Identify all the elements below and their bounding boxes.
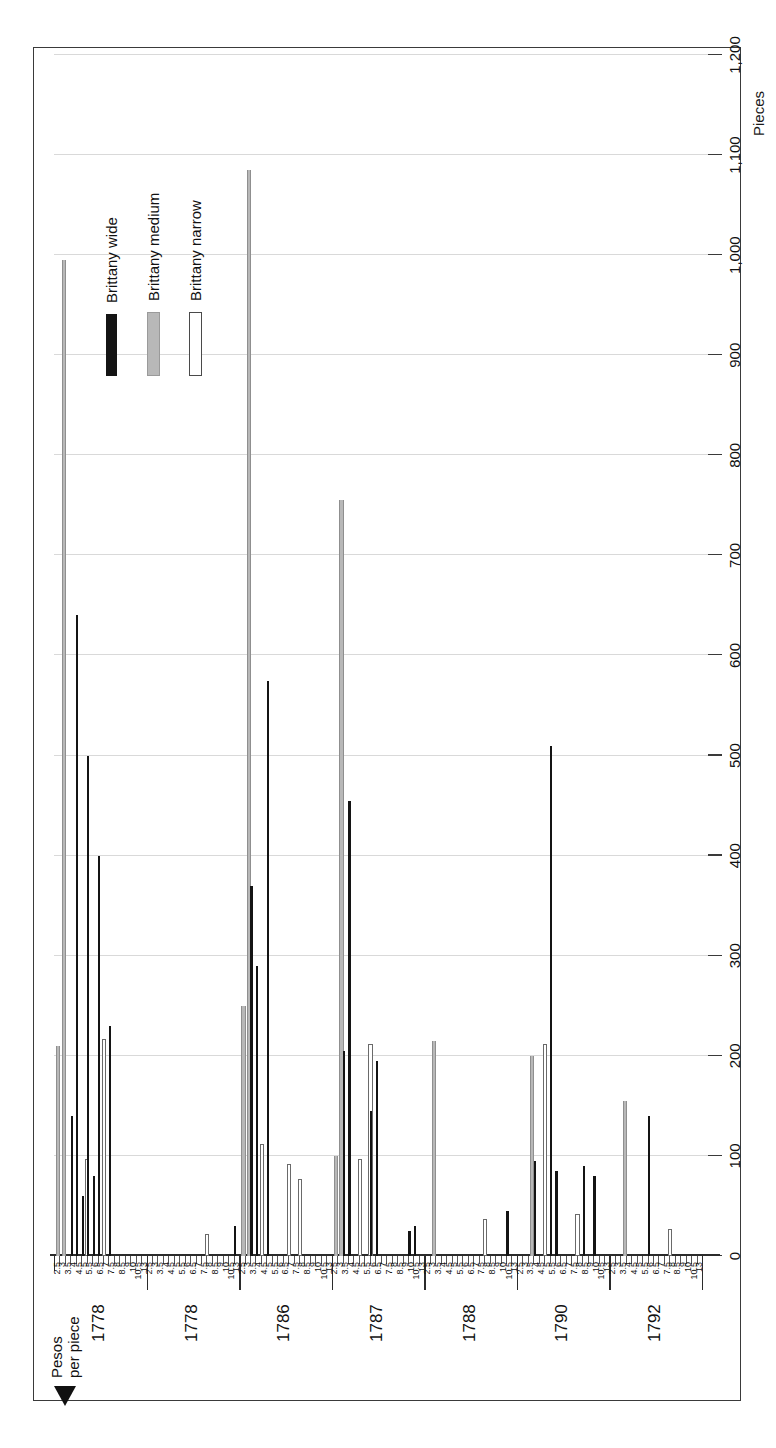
bar-wide: [648, 1116, 650, 1256]
value-tick-label: 700: [726, 543, 743, 568]
value-tick-label: 1,100: [726, 136, 743, 174]
gridline: [54, 554, 720, 555]
legend-swatch-medium: [147, 312, 160, 376]
value-tick: [708, 254, 722, 255]
value-tick-label: 1,000: [726, 236, 743, 274]
value-tick: [708, 354, 722, 355]
plot-area: 1,2001,1001,0009008007006005004003002001…: [42, 41, 732, 1361]
value-tick-label: 100: [726, 1143, 743, 1168]
bar-wide: [376, 1061, 378, 1256]
bar-narrow: [102, 1039, 106, 1256]
bar-wide: [109, 1026, 111, 1256]
gridline: [54, 1055, 720, 1056]
bar-wide: [408, 1231, 410, 1256]
legend-item[interactable]: Brittany medium: [144, 193, 162, 376]
bar-wide: [534, 1161, 536, 1256]
bar-medium: [623, 1101, 627, 1256]
gridline: [54, 955, 720, 956]
value-tick-label: 800: [726, 443, 743, 468]
bar-narrow: [358, 1159, 362, 1256]
rotated-chart-canvas: 1,2001,1001,0009008007006005004003002001…: [42, 41, 732, 1361]
bar-medium: [62, 260, 66, 1256]
year-label: 1792: [645, 1304, 665, 1342]
bar-wide: [234, 1226, 236, 1256]
bar-wide: [593, 1176, 595, 1256]
chart-page: 1,2001,1001,0009008007006005004003002001…: [0, 0, 776, 1448]
legend-swatch-wide: [106, 314, 117, 376]
value-tick: [708, 454, 722, 455]
value-tick: [708, 955, 722, 956]
bar-wide: [414, 1226, 416, 1256]
bar-wide: [87, 756, 89, 1256]
bar-wide: [370, 1111, 372, 1256]
value-tick-label: 200: [726, 1043, 743, 1068]
gridline: [54, 154, 720, 155]
value-tick-label: 1,200: [726, 36, 743, 74]
bar-wide: [343, 1051, 345, 1256]
bar-narrow: [543, 1044, 547, 1256]
bar-wide: [267, 681, 269, 1256]
value-tick: [708, 154, 722, 155]
legend-swatch-narrow: [189, 312, 202, 376]
year-label: 1788: [460, 1304, 480, 1342]
pesos-line1: Pesos: [48, 1316, 65, 1378]
legend-item[interactable]: Brittany wide: [102, 217, 120, 376]
bar-wide: [250, 886, 252, 1256]
value-tick: [708, 1155, 722, 1156]
value-tick-label: 500: [726, 743, 743, 768]
bar-wide: [506, 1211, 508, 1256]
value-tick-label: 0: [726, 1252, 743, 1260]
value-tick: [708, 854, 722, 855]
bar-narrow: [668, 1229, 672, 1256]
bar-medium: [241, 1006, 245, 1256]
value-tick-label: 300: [726, 943, 743, 968]
bar-wide: [76, 615, 78, 1256]
bar-wide: [98, 856, 100, 1256]
bar-wide: [348, 801, 350, 1256]
gridline: [54, 855, 720, 856]
legend-item[interactable]: Brittany narrow: [186, 200, 204, 376]
year-label: 1790: [552, 1304, 572, 1342]
value-tick: [708, 54, 722, 55]
bar-wide: [583, 1166, 585, 1256]
bar-medium: [432, 1041, 436, 1256]
value-tick-label: 600: [726, 643, 743, 668]
value-tick-label: 400: [726, 843, 743, 868]
bar-narrow: [260, 1144, 264, 1256]
bar-narrow: [287, 1164, 291, 1256]
bar-wide: [256, 966, 258, 1256]
gridline: [54, 54, 720, 55]
bar-narrow: [205, 1234, 209, 1256]
gridline: [54, 454, 720, 455]
category-axis-title: Pesos per piece: [48, 1316, 83, 1378]
year-label: 1778: [182, 1304, 202, 1342]
group-separator: [702, 1256, 703, 1290]
legend-label: Brittany narrow: [187, 200, 204, 301]
value-tick: [708, 554, 722, 555]
gridline: [54, 755, 720, 756]
bar-narrow: [575, 1214, 579, 1256]
bar-wide: [93, 1176, 95, 1256]
value-tick-label: 900: [726, 343, 743, 368]
figure-border: 1,2001,1001,0009008007006005004003002001…: [33, 47, 741, 1401]
year-label: 1778: [89, 1304, 109, 1342]
bar-narrow: [298, 1179, 302, 1256]
gridline: [54, 1155, 720, 1156]
bar-narrow: [483, 1219, 487, 1256]
gridline: [54, 655, 720, 656]
bar-medium: [334, 1156, 338, 1256]
bar-wide: [550, 746, 552, 1256]
year-label: 1786: [274, 1304, 294, 1342]
legend-label: Brittany wide: [103, 217, 120, 303]
value-tick: [708, 1055, 722, 1056]
year-label: 1787: [367, 1304, 387, 1342]
value-axis-title: Pieces: [750, 91, 767, 136]
pesos-line2: per piece: [65, 1316, 82, 1378]
value-tick: [708, 654, 722, 655]
up-arrow-icon: [54, 1386, 76, 1406]
category-axis-title-group: Pesos per piece: [48, 1196, 83, 1406]
legend-label: Brittany medium: [145, 193, 162, 301]
value-tick: [708, 754, 722, 755]
bar-wide: [555, 1171, 557, 1256]
